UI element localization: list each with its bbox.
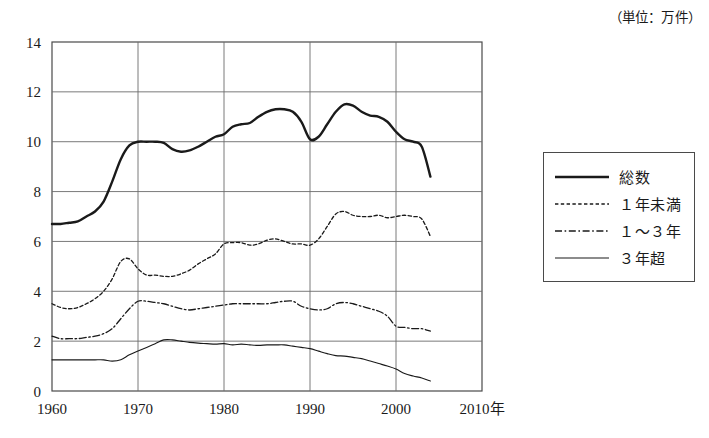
x-axis-tick-label: 1980	[209, 401, 239, 417]
y-axis-tick-label: 10	[26, 134, 41, 150]
legend-item-over3[interactable]: ３年超	[554, 244, 694, 271]
y-axis-tick-label: 0	[34, 384, 42, 400]
legend-item-total[interactable]: 総数	[554, 163, 694, 190]
legend-line-swatch-icon	[554, 252, 610, 264]
y-axis-tick-label: 12	[26, 84, 41, 100]
chart-container: （単位：万件） 02468101214196019701980199020002…	[0, 0, 709, 438]
series-line-dotted	[52, 211, 430, 308]
x-axis-tick-label: 1970	[123, 401, 153, 417]
y-axis-tick-label: 4	[34, 284, 42, 300]
series-line-dash-dot	[52, 301, 430, 339]
y-axis-tick-label: 6	[34, 234, 42, 250]
series-line-solid-thin	[52, 340, 430, 381]
legend-item-label: 総数	[619, 166, 650, 187]
legend-item-y1to3[interactable]: １〜３年	[554, 217, 694, 244]
y-axis-tick-label: 8	[34, 184, 42, 200]
legend-line-swatch-icon	[554, 198, 610, 210]
x-axis-tick-label: 1990	[295, 401, 325, 417]
x-axis-tick-label: 2000	[381, 401, 411, 417]
legend-item-under1[interactable]: １年未満	[554, 190, 694, 217]
y-axis-tick-label: 14	[26, 35, 42, 51]
y-axis-tick-label: 2	[34, 334, 42, 350]
legend-line-swatch-icon	[554, 225, 610, 237]
chart-legend: 総数１年未満１〜３年３年超	[543, 152, 695, 282]
legend-item-label: １〜３年	[619, 220, 681, 241]
series-line-solid-thick	[52, 104, 430, 224]
x-axis-tick-label: 2010年	[460, 401, 505, 417]
x-axis-tick-label: 1960	[37, 401, 67, 417]
legend-item-label: ３年超	[619, 247, 666, 268]
legend-item-label: １年未満	[619, 193, 681, 214]
legend-line-swatch-icon	[554, 171, 610, 183]
